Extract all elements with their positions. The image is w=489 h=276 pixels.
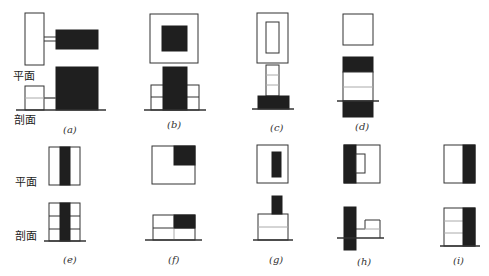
caption-g: (g) <box>269 254 283 265</box>
diagram-canvas <box>0 0 489 276</box>
figure-b <box>144 14 206 110</box>
label-section-top: 剖面 <box>14 111 36 127</box>
label-plan-top: 平面 <box>13 67 35 83</box>
figure-a <box>16 13 106 110</box>
figure-i <box>440 145 480 246</box>
figure-h <box>337 145 384 250</box>
caption-i: (i) <box>453 255 464 266</box>
caption-c: (c) <box>270 122 283 133</box>
figure-c <box>252 13 294 109</box>
label-plan-bottom: 平面 <box>15 173 37 189</box>
figure-d <box>337 14 379 117</box>
figure-e <box>44 147 86 241</box>
figure-f <box>145 146 202 240</box>
caption-h: (h) <box>357 256 371 267</box>
caption-a: (a) <box>63 124 77 135</box>
caption-f: (f) <box>168 254 180 265</box>
label-section-bottom: 剖面 <box>15 227 37 243</box>
caption-d: (d) <box>355 121 369 132</box>
figure-g <box>253 145 293 240</box>
caption-e: (e) <box>63 254 77 265</box>
caption-b: (b) <box>167 119 181 130</box>
